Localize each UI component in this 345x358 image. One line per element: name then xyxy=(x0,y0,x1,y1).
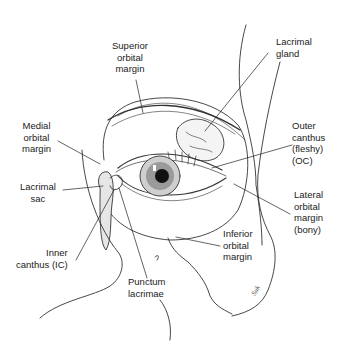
label-superior-orbital-margin: Superior orbital margin xyxy=(112,40,148,75)
label-lacrimal-gland: Lacrimal gland xyxy=(276,36,312,59)
label-lacrimal-sac: Lacrimal sac xyxy=(20,181,56,204)
artist-signature: Suk xyxy=(250,283,262,297)
label-inferior-orbital-margin: Inferior orbital margin xyxy=(223,228,253,263)
label-lateral-orbital-margin: Lateral orbital margin (bony) xyxy=(294,189,323,235)
label-inner-canthus: Inner canthus (IC) xyxy=(16,247,68,270)
eye-anatomy-diagram: Suk Superior orbital margin Lacrimal gla… xyxy=(0,0,345,358)
label-punctum-lacrimae: Punctum lacrimae xyxy=(128,276,166,299)
label-medial-orbital-margin: Medial orbital margin xyxy=(22,120,51,155)
label-outer-canthus: Outer canthus (fleshy) (OC) xyxy=(292,120,325,166)
